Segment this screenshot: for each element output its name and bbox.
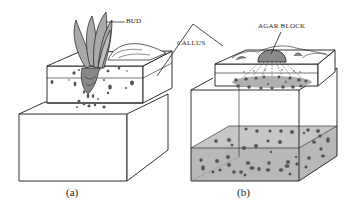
caption-a: (a) [66,186,78,198]
callus-label: CALLUS [177,39,205,47]
callus-leader-a [157,24,193,76]
agar-block-label: AGAR BLOCK [258,22,305,30]
callus-diagram [0,0,349,212]
panel-a [19,12,193,181]
bud-label: BUD [126,17,141,25]
caption-b: (b) [237,186,250,198]
panel-b [191,24,337,181]
lower-block-a [19,94,168,181]
